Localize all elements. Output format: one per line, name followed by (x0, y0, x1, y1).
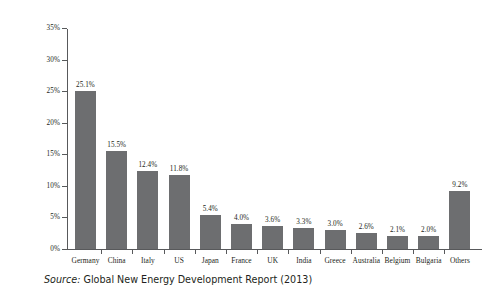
bar-group: 2.1%Belgium (387, 28, 408, 249)
y-axis-tick (62, 217, 67, 218)
source-prefix: Source: (44, 274, 80, 285)
x-axis-line (67, 249, 482, 250)
y-axis-tick-label: 25% (47, 87, 60, 95)
y-axis-tick-label: 35% (47, 24, 60, 32)
x-axis-tick (382, 250, 383, 254)
bar-value-label: 25.1% (76, 81, 95, 89)
x-axis-tick (257, 250, 258, 254)
bar-chart-figure: 0%5%10%15%20%25%30%35% 25.1%Germany15.5%… (40, 16, 486, 289)
bar-group: 15.5%China (106, 28, 127, 249)
bar-value-label: 2.6% (359, 223, 374, 231)
bar-group: 9.2%Others (449, 28, 470, 249)
bar-value-label: 3.3% (296, 218, 311, 226)
y-axis-tick-label: 10% (47, 182, 60, 190)
x-axis-tick (320, 250, 321, 254)
bar-group: 2.0%Bulgaria (418, 28, 439, 249)
y-axis-tick-label: 0% (50, 245, 60, 253)
source-caption: Source: Global New Energy Development Re… (44, 274, 312, 285)
bar (106, 151, 127, 249)
y-axis-tick (62, 154, 67, 155)
bar-value-label: 3.6% (265, 216, 280, 224)
x-axis-tick (413, 250, 414, 254)
y-axis-tick (62, 186, 67, 187)
x-axis-category-label: China (108, 256, 126, 265)
bar-value-label: 2.0% (421, 226, 436, 234)
x-axis-category-label: Germany (72, 256, 100, 265)
bar-value-label: 3.0% (328, 220, 343, 228)
bar (325, 230, 346, 249)
x-axis-tick (351, 250, 352, 254)
bar (231, 224, 252, 249)
source-text: Global New Energy Development Report (20… (83, 274, 312, 285)
bar (75, 91, 96, 249)
x-axis-category-label: UK (267, 256, 278, 265)
y-axis-tick (62, 91, 67, 92)
x-axis-category-label: US (174, 256, 184, 265)
bar-group: 11.8%US (169, 28, 190, 249)
x-axis-tick (195, 250, 196, 254)
bar (449, 191, 470, 249)
x-axis-category-label: Bulgaria (416, 256, 442, 265)
y-axis-tick (62, 249, 67, 250)
bar-value-label: 11.8% (170, 165, 189, 173)
bar-value-label: 2.1% (390, 226, 405, 234)
x-axis-tick (226, 250, 227, 254)
x-axis-tick (101, 250, 102, 254)
y-axis-tick (62, 123, 67, 124)
x-axis-tick (132, 250, 133, 254)
bar-group: 2.6%Australia (356, 28, 377, 249)
bar (418, 236, 439, 249)
x-axis-category-label: Greece (324, 256, 345, 265)
y-axis-tick-label: 15% (47, 150, 60, 158)
bar-group: 3.0%Greece (325, 28, 346, 249)
bar-group: 25.1%Germany (75, 28, 96, 249)
bar-group: 3.3%India (293, 28, 314, 249)
bar-group: 5.4%Japan (200, 28, 221, 249)
x-axis-category-label: France (231, 256, 251, 265)
bar (387, 236, 408, 249)
x-axis-category-label: Others (450, 256, 470, 265)
x-axis-category-label: Belgium (385, 256, 411, 265)
y-axis-tick-label: 5% (50, 213, 60, 221)
bar-group: 4.0%France (231, 28, 252, 249)
bar (169, 175, 190, 250)
x-axis-category-label: Australia (353, 256, 381, 265)
x-axis-category-label: Japan (202, 256, 219, 265)
bar (262, 226, 283, 249)
bar-group: 12.4%Italy (137, 28, 158, 249)
bar-group: 3.6%UK (262, 28, 283, 249)
y-axis-tick-label: 20% (47, 119, 60, 127)
y-axis-tick (62, 60, 67, 61)
y-axis-tick (62, 28, 67, 29)
bar (137, 171, 158, 249)
x-axis-tick (444, 250, 445, 254)
bar-value-label: 15.5% (107, 141, 126, 149)
x-axis-tick (164, 250, 165, 254)
x-axis-category-label: India (296, 256, 311, 265)
bar (356, 233, 377, 249)
bar-value-label: 5.4% (203, 205, 218, 213)
bar-value-label: 9.2% (452, 181, 467, 189)
plot-area: 0%5%10%15%20%25%30%35% 25.1%Germany15.5%… (67, 26, 482, 252)
y-axis-tick-label: 30% (47, 56, 60, 64)
bar (200, 215, 221, 249)
bar-value-label: 12.4% (138, 161, 157, 169)
bar-value-label: 4.0% (234, 214, 249, 222)
x-axis-category-label: Italy (141, 256, 155, 265)
x-axis-tick (288, 250, 289, 254)
y-axis-line (67, 29, 68, 250)
bar (293, 228, 314, 249)
